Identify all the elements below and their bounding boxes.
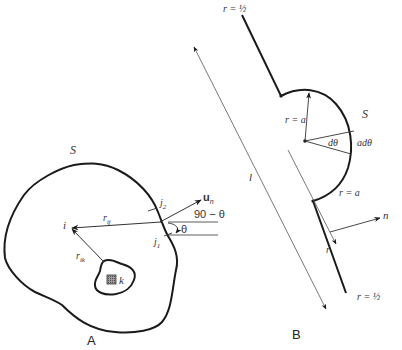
r-arrow-label: r [326,244,330,255]
point-k-label: k [119,274,125,286]
surface-s-label-b: S [362,107,368,121]
dtheta-label: dθ [328,137,338,148]
r-direction-arrow [288,150,336,244]
un-label: un [203,191,214,205]
top-end-label: r = ½ [223,3,247,14]
angle-comp-label: 90 − θ [194,208,225,220]
rij-label: rij [103,212,111,226]
theta-label: θ [181,223,187,235]
figure-a: S i rij rik k j2 j1 un 90 − θ θ A [4,143,225,348]
tick-j2 [148,208,157,211]
point-i-label: i [63,219,66,231]
diagram-canvas: S i rij rik k j2 j1 un 90 − θ θ A r = ½ … [0,0,402,350]
radius-label-1: r = a [285,114,306,125]
corner-dot-top [279,94,282,97]
rik-label: rik [76,250,86,264]
bottom-end-label: r = ½ [357,291,381,302]
element-k-icon [107,275,116,284]
length-l-arrow [194,47,326,309]
surface-s-label-a: S [70,143,76,157]
panel-label-b: B [292,327,301,342]
figure-b: r = ½ S r = a dθ adθ r = a l r n r = ½ B [194,3,389,342]
theta-angle-arc [168,223,178,233]
j1-label: j1 [152,236,160,250]
vector-rij [72,222,161,228]
normal-n-label: n [383,209,389,221]
arc-length-label: adθ [357,137,372,148]
j2-label: j2 [158,197,167,211]
length-l-label: l [249,171,252,183]
radius-label-2: r = a [339,187,360,198]
panel-label-a: A [87,333,96,348]
normal-n-arrow [330,218,380,232]
